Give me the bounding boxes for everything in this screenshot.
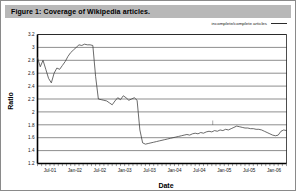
y-axis-title: Ratio xyxy=(7,92,14,110)
y-tick-label: 2 xyxy=(32,110,35,115)
x-axis-minor-ticks xyxy=(38,164,287,167)
y-tick-label: 2.6 xyxy=(28,71,35,76)
y-tick-label: 1.8 xyxy=(28,123,35,128)
x-axis-title: Date xyxy=(158,182,173,189)
y-tick-label: 2.2 xyxy=(28,97,35,102)
x-tick-label: Jan-03 xyxy=(118,168,132,173)
x-tick-label: Jan-06 xyxy=(267,168,281,173)
x-tick-label: Jul-05 xyxy=(243,168,256,173)
gridlines-group xyxy=(38,35,287,151)
y-tick-label: 2.4 xyxy=(28,84,35,89)
x-tick-label: Jan-05 xyxy=(217,168,231,173)
x-tick-label: Jan-02 xyxy=(68,168,82,173)
y-tick-label: 1.2 xyxy=(28,161,35,166)
x-tick-label: Jan-04 xyxy=(167,168,181,173)
y-tick-label: 1.6 xyxy=(28,135,35,140)
y-tick-label: 3 xyxy=(32,45,35,50)
y-tick-label: 1.4 xyxy=(28,148,35,153)
data-series-group xyxy=(38,44,287,144)
data-line-series xyxy=(38,44,287,144)
x-tick-label: Jul-01 xyxy=(44,168,57,173)
line-chart-svg: 1.21.41.61.822.22.42.62.833.2 Jul-01Jan-… xyxy=(1,1,296,191)
x-axis-tick-labels: Jul-01Jan-02Jul-02Jan-03Jul-03Jan-04Jul-… xyxy=(44,168,282,173)
y-tick-label: 3.2 xyxy=(28,32,35,37)
plot-area: 1.21.41.61.822.22.42.62.833.2 Jul-01Jan-… xyxy=(1,1,296,191)
x-tick-label: Jul-04 xyxy=(193,168,206,173)
y-tick-label: 2.8 xyxy=(28,58,35,63)
figure-container: Figure 1: Coverage of Wikipedia articles… xyxy=(0,0,296,191)
y-axis-tick-labels: 1.21.41.61.822.22.42.62.833.2 xyxy=(28,32,35,166)
x-tick-label: Jul-03 xyxy=(143,168,156,173)
x-tick-label: Jul-02 xyxy=(93,168,106,173)
